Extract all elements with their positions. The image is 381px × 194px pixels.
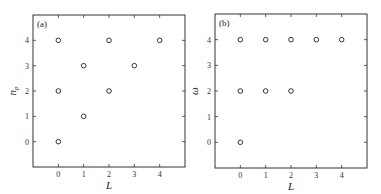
y-tick-label: 0 — [207, 138, 211, 147]
x-tick-label: 1 — [82, 170, 86, 179]
data-point-marker — [81, 63, 86, 68]
data-point-marker — [56, 139, 61, 144]
data-point-marker — [81, 114, 86, 119]
panel-tag-label: (b) — [219, 18, 230, 28]
data-point-marker — [107, 38, 112, 43]
svg-text:ω: ω — [188, 87, 200, 95]
data-point-marker — [339, 37, 344, 42]
x-axis-label: L — [287, 180, 294, 192]
x-tick-label: 1 — [264, 171, 268, 180]
x-tick-label: 2 — [107, 170, 111, 179]
data-point-marker — [132, 63, 137, 68]
x-tick-label: 2 — [289, 171, 293, 180]
y-axis-label: ω — [188, 87, 200, 95]
data-point-marker — [238, 37, 243, 42]
scatter-plot-a: 0123401234(a)Lnp — [0, 0, 190, 194]
data-point-marker — [56, 38, 61, 43]
x-axis-label: L — [105, 179, 112, 191]
data-point-marker — [263, 37, 268, 42]
data-point-marker — [314, 37, 319, 42]
x-tick-label: 3 — [132, 170, 136, 179]
data-point-marker — [157, 38, 162, 43]
data-point-marker — [56, 89, 61, 94]
svg-text:np: np — [6, 86, 20, 96]
data-point-marker — [263, 89, 268, 94]
data-point-marker — [107, 89, 112, 94]
y-tick-label: 3 — [207, 61, 211, 70]
data-point-marker — [238, 89, 243, 94]
y-tick-label: 4 — [25, 36, 29, 45]
panel-b: 0123401234(b)Lω — [182, 0, 372, 194]
y-tick-label: 2 — [25, 87, 29, 96]
x-tick-label: 4 — [158, 170, 162, 179]
x-tick-label: 4 — [340, 171, 344, 180]
panel-tag-label: (a) — [37, 19, 47, 29]
x-tick-label: 3 — [314, 171, 318, 180]
y-tick-label: 3 — [25, 62, 29, 71]
data-point-marker — [238, 140, 243, 145]
scatter-plot-b: 0123401234(b)Lω — [182, 0, 381, 194]
y-tick-label: 1 — [25, 112, 29, 121]
panel-a: 0123401234(a)Lnp — [0, 0, 190, 194]
x-tick-label: 0 — [238, 171, 242, 180]
y-tick-label: 2 — [207, 87, 211, 96]
data-point-marker — [289, 37, 294, 42]
x-tick-label: 0 — [56, 170, 60, 179]
y-tick-label: 0 — [25, 138, 29, 147]
y-tick-label: 4 — [207, 36, 211, 45]
data-point-marker — [289, 89, 294, 94]
y-axis-label: np — [6, 86, 20, 96]
y-tick-label: 1 — [207, 113, 211, 122]
